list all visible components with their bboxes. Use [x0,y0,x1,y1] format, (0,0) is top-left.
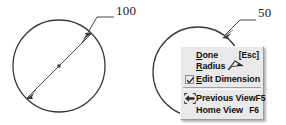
menu-item-radius[interactable]: Radius [181,61,263,73]
menu-item-previous-view-label: Previous View [196,92,256,104]
menu-gutter-home-view [184,105,196,116]
menu-gutter-radius [184,62,196,73]
dimension-label-100[interactable]: 100 [116,3,136,19]
menu-gutter-previous-view [184,93,196,104]
radius-icon [227,60,245,74]
menu-item-edit-dimension[interactable]: Edit Dimension [181,73,263,85]
menu-item-home-view-accel: F6 [249,104,263,116]
menu-item-home-view-label: Home View [196,104,249,116]
menu-item-radius-rest: adius [202,61,225,71]
menu-gutter-edit-dimension [184,74,196,85]
menu-item-previous-view-rest: Previous View [196,93,256,103]
menu-separator [183,87,261,90]
menu-item-home-view[interactable]: Home View F6 [181,104,263,116]
menu-item-done-rest: one [202,50,218,60]
context-menu: Done [Esc] Radius Edit Dimension [180,46,264,120]
menu-gutter-done [184,50,196,61]
left-circle-group [13,17,114,112]
edit-dimension-checkbox[interactable] [185,75,194,84]
menu-item-previous-view[interactable]: Previous View F5 [181,92,263,104]
menu-item-previous-view-accel: F5 [256,92,270,104]
dimension-label-50[interactable]: 50 [258,5,271,21]
checkmark-icon [186,76,195,85]
menu-item-edit-dimension-rest: dit Dimension [202,74,260,84]
menu-item-edit-dimension-label: Edit Dimension [196,73,260,85]
menu-item-home-view-rest: Home View [196,105,243,115]
menu-item-radius-label: Radius [196,60,259,74]
